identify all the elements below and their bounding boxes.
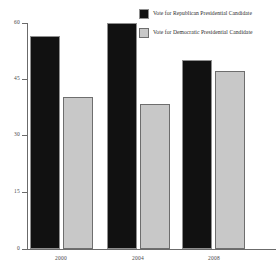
legend-item-republican: Vote for Republican Presidential Candida… (139, 9, 279, 19)
y-tick-mark (22, 23, 28, 24)
y-axis-line (27, 23, 28, 250)
y-tick-mark (22, 192, 28, 193)
bar-republican-2008 (182, 60, 212, 249)
y-tick-label: 45 (0, 76, 20, 82)
bar-democratic-2000 (63, 97, 93, 249)
y-tick-label: 60 (0, 20, 20, 26)
legend-label-democratic: Vote for Democratic Presidential Candida… (153, 30, 253, 36)
legend-swatch-republican-icon (139, 9, 149, 19)
x-tick-label-2004: 2004 (108, 256, 168, 262)
bar-republican-2000 (30, 36, 60, 249)
y-tick-label: 30 (0, 132, 20, 138)
bar-democratic-2008 (215, 71, 245, 249)
x-axis-line (27, 249, 276, 250)
legend: Vote for Republican Presidential Candida… (139, 9, 279, 47)
legend-swatch-democratic-icon (139, 28, 149, 38)
y-tick-label: 15 (0, 189, 20, 195)
x-tick-label-2008: 2008 (184, 256, 244, 262)
legend-label-republican: Vote for Republican Presidential Candida… (153, 11, 252, 17)
y-tick-mark (22, 249, 28, 250)
bar-democratic-2004 (140, 104, 170, 249)
y-tick-label: 0 (0, 246, 20, 252)
y-tick-mark (22, 79, 28, 80)
bar-chart: 60 45 30 15 0 2000 2004 2008 Vote for Re… (0, 0, 280, 270)
x-tick-label-2000: 2000 (31, 256, 91, 262)
bar-republican-2004 (107, 23, 137, 249)
y-tick-mark (22, 135, 28, 136)
legend-item-democratic: Vote for Democratic Presidential Candida… (139, 28, 279, 38)
